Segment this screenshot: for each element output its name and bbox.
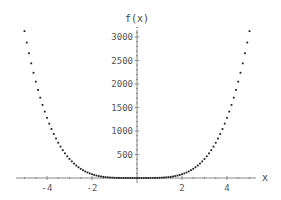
y-ticks: 50010001500200025003000 <box>111 28 139 174</box>
x-tick-label: -4 <box>42 183 53 193</box>
data-point <box>116 177 118 179</box>
data-point <box>204 158 206 160</box>
y-tick-label: 500 <box>117 150 133 160</box>
data-point <box>145 177 147 179</box>
data-point <box>195 166 197 168</box>
data-point <box>159 177 161 179</box>
data-point <box>161 177 163 179</box>
y-axis-label: f(x) <box>125 13 149 24</box>
data-point <box>111 177 113 179</box>
data-point <box>206 155 208 157</box>
data-point <box>42 104 44 106</box>
data-point <box>48 123 50 125</box>
data-point <box>154 177 156 179</box>
data-point <box>84 171 86 173</box>
data-point <box>226 117 228 119</box>
data-point <box>197 165 199 167</box>
data-point <box>66 155 68 157</box>
data-point <box>174 175 176 177</box>
data-point <box>107 176 109 178</box>
data-point <box>73 163 75 165</box>
data-point <box>201 160 203 162</box>
data-point <box>57 142 59 144</box>
data-point <box>78 166 80 168</box>
data-point <box>138 177 140 179</box>
data-point <box>165 176 167 178</box>
data-point <box>192 168 194 170</box>
data-point <box>141 177 143 179</box>
data-point <box>181 173 183 175</box>
data-point <box>237 81 239 83</box>
data-point <box>26 42 28 44</box>
data-point <box>163 177 165 179</box>
data-point <box>242 62 244 64</box>
data-point <box>244 52 246 54</box>
data-point <box>62 149 64 151</box>
data-point <box>156 177 158 179</box>
data-point <box>55 138 57 140</box>
x-tick-label: 2 <box>179 183 184 193</box>
data-point <box>75 165 77 167</box>
data-point <box>46 117 48 119</box>
data-point <box>105 176 107 178</box>
data-point <box>120 177 122 179</box>
data-point <box>170 176 172 178</box>
data-point <box>100 176 102 178</box>
data-point <box>136 177 138 179</box>
y-tick-label: 1000 <box>111 126 133 136</box>
data-point <box>127 177 129 179</box>
data-point <box>215 142 217 144</box>
data-point <box>114 177 116 179</box>
data-point <box>60 146 62 148</box>
y-tick-label: 3000 <box>111 32 133 42</box>
data-point <box>179 174 181 176</box>
data-point <box>152 177 154 179</box>
data-point <box>134 177 136 179</box>
data-point <box>222 128 224 130</box>
data-point <box>64 152 66 154</box>
data-point <box>143 177 145 179</box>
data-point <box>224 123 226 125</box>
y-tick-label: 2000 <box>111 79 133 89</box>
data-point <box>199 163 201 165</box>
data-point <box>35 81 37 83</box>
data-point <box>168 176 170 178</box>
data-point <box>44 111 46 113</box>
data-point <box>71 160 73 162</box>
data-point <box>219 133 221 135</box>
data-point <box>53 133 55 135</box>
data-point <box>231 104 233 106</box>
data-point <box>208 152 210 154</box>
data-point <box>228 111 230 113</box>
x-tick-label: 4 <box>224 183 229 193</box>
data-point <box>132 177 134 179</box>
data-point <box>172 176 174 178</box>
data-point <box>190 169 192 171</box>
data-point <box>33 72 35 74</box>
data-point <box>210 149 212 151</box>
data-point <box>177 175 179 177</box>
data-point <box>123 177 125 179</box>
data-point <box>217 138 219 140</box>
data-point <box>129 177 131 179</box>
data-point <box>183 173 185 175</box>
data-point <box>69 158 71 160</box>
data-point <box>109 177 111 179</box>
data-point <box>93 174 95 176</box>
x-axis-label: x <box>262 172 268 183</box>
data-point <box>186 172 188 174</box>
data-point <box>147 177 149 179</box>
data-point <box>240 72 242 74</box>
data-point <box>235 89 237 91</box>
y-tick-label: 2500 <box>111 56 133 66</box>
data-point <box>30 62 32 64</box>
data-point <box>87 172 89 174</box>
data-point <box>51 128 53 130</box>
data-point <box>150 177 152 179</box>
data-point <box>28 52 30 54</box>
x-tick-label: -2 <box>87 183 98 193</box>
data-point <box>125 177 127 179</box>
data-point <box>96 175 98 177</box>
data-point <box>249 30 251 32</box>
data-point <box>80 168 82 170</box>
